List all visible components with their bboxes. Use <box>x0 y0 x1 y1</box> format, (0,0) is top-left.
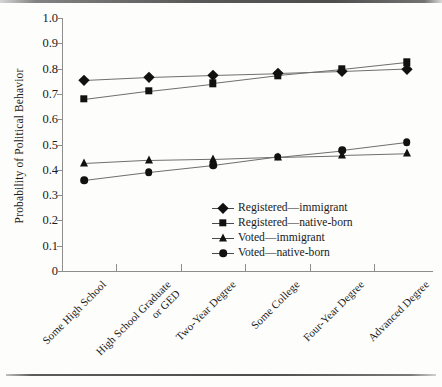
x-category-label: Four-Year Degree <box>301 278 367 344</box>
figure-canvas: Probability of Political Behavior 1.00.9… <box>0 0 442 387</box>
legend-label: Voted—native-born <box>238 247 330 259</box>
legend-label: Registered—immigrant <box>238 202 347 214</box>
legend-label: Registered—native-born <box>238 217 353 229</box>
legend-item: Voted—immigrant <box>212 230 353 245</box>
legend-marker-circle-icon <box>212 247 234 259</box>
legend-marker-triangle-icon <box>212 232 234 244</box>
chart-legend: Registered—immigrantRegistered—native-bo… <box>212 200 353 261</box>
legend-item: Voted—native-born <box>212 246 353 261</box>
data-point-diamond <box>218 202 229 213</box>
x-category-label: Some High School <box>40 278 109 347</box>
legend-marker-diamond-icon <box>212 202 234 214</box>
x-axis-category-labels: Some High SchoolHigh School Graduateor G… <box>0 0 442 387</box>
legend-label: Voted—immigrant <box>238 232 325 244</box>
x-category-label: Advanced Degree <box>366 278 432 344</box>
x-category-label: Two-Year Degree <box>173 278 238 343</box>
x-category-label: High School Graduateor GED <box>94 278 183 367</box>
legend-item: Registered—native-born <box>212 215 353 230</box>
data-point-square <box>219 219 226 226</box>
legend-marker-square-icon <box>212 217 234 229</box>
data-point-circle <box>219 249 227 257</box>
data-point-triangle <box>219 234 227 242</box>
legend-item: Registered—immigrant <box>212 200 353 215</box>
x-category-label: Some College <box>249 278 303 332</box>
